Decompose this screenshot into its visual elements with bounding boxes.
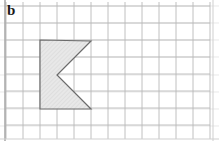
grid-canvas [0,0,219,141]
geometry-figure-panel: b [0,0,219,141]
canvas-background [0,0,219,141]
figure-label: b [7,2,15,19]
